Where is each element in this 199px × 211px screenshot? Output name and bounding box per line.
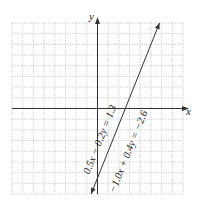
line-arrow-top-icon: [155, 23, 160, 29]
x-axis-label: x: [185, 105, 191, 117]
y-axis-arrow-icon: [95, 17, 100, 24]
axes: [12, 17, 189, 194]
y-axis-label: y: [88, 10, 94, 22]
plot-area: y x 0.5x − 0.2y = 1.3 −1.0x + 0.4y = −2.…: [0, 0, 199, 211]
line-arrow-bottom-icon: [91, 188, 96, 194]
coordinate-graph: y x 0.5x − 0.2y = 1.3 −1.0x + 0.4y = −2.…: [0, 0, 199, 211]
